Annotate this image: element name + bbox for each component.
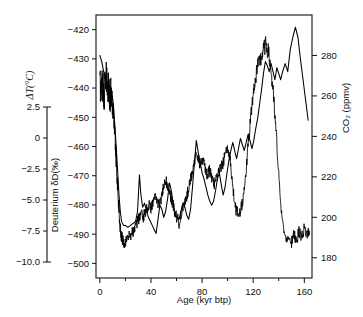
deuterium-axis-title: Deuterium δD(‰): [49, 158, 60, 232]
delta-t-axis-title: ΔT(°C): [24, 70, 36, 100]
axis-tick-label: 180: [321, 252, 337, 263]
axis-tick-label: −450: [68, 112, 89, 123]
axis-tick-label: 200: [321, 212, 337, 223]
deuterium-axis: −420−430−440−450−460−470−480−490−500: [68, 24, 96, 269]
axis-tick-label: −480: [68, 199, 89, 210]
axis-tick-label: −420: [68, 24, 89, 35]
axis-tick-label: −2.5: [21, 163, 40, 174]
co2-axis: 180200220240260280: [312, 50, 337, 263]
axis-tick-label: 160: [296, 286, 312, 297]
axis-tick-label: 240: [321, 131, 337, 142]
axis-tick-label: −500: [68, 258, 89, 269]
axis-tick-label: −430: [68, 53, 89, 64]
vostok-ice-core-figure: 04080120160 Age (kyr btp) −420−430−440−4…: [0, 0, 363, 317]
axis-tick-label: −490: [68, 229, 89, 240]
axis-tick-label: 0: [97, 286, 102, 297]
axis-tick-label: 220: [321, 171, 337, 182]
x-axis-title: Age (kyr btp): [177, 294, 231, 305]
axis-tick-label: 280: [321, 50, 337, 61]
axis-tick-label: 40: [146, 286, 157, 297]
axis-tick-label: −460: [68, 141, 89, 152]
axis-tick-label: −440: [68, 82, 89, 93]
axis-tick-label: −470: [68, 170, 89, 181]
axis-tick-label: −7.5: [21, 225, 40, 236]
axis-tick-label: 120: [245, 286, 261, 297]
axis-tick-label: 2.5: [27, 101, 40, 112]
axis-tick-label: 0: [35, 132, 40, 143]
co2-axis-title: CO₂ (ppmv): [340, 83, 351, 133]
axis-tick-label: −5.0: [21, 194, 40, 205]
axis-tick-label: −10.0: [16, 256, 40, 267]
delta-t-axis: 2.50−2.5−5.0−7.5−10.0: [16, 101, 51, 267]
chart-canvas: 04080120160 Age (kyr btp) −420−430−440−4…: [0, 0, 363, 317]
axis-tick-label: 260: [321, 90, 337, 101]
